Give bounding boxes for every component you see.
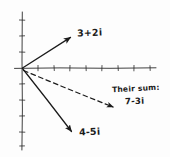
sum-annotation-value: 7-3i xyxy=(125,97,145,107)
vector-4-minus-5i xyxy=(23,69,72,132)
vector-sum-7-minus-3i xyxy=(24,71,114,108)
x-axis-line xyxy=(15,68,157,69)
vector-label-4-minus-5i: 4-5i xyxy=(79,127,101,138)
vector-label-3-plus-2i: 3+2i xyxy=(77,27,103,38)
vector-3-plus-2i xyxy=(23,37,71,68)
y-axis-line xyxy=(22,12,23,150)
figure-canvas: 3+2i 4-5i Their sum: 7-3i xyxy=(0,0,170,157)
